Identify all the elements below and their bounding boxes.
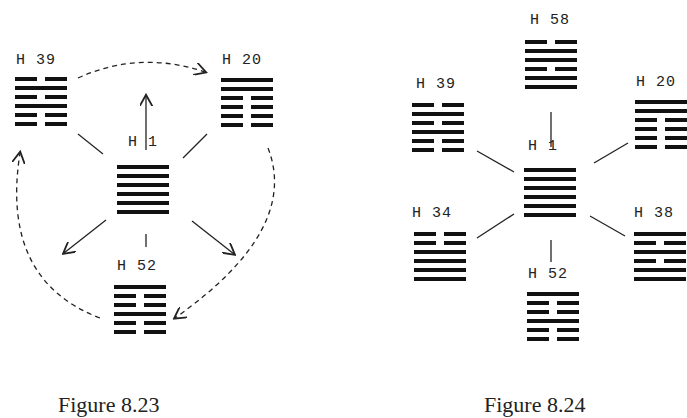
solid-line — [634, 232, 686, 236]
hexagram-label: H 20 — [636, 74, 676, 91]
broken-line — [635, 136, 687, 140]
hexagram-20 — [221, 78, 273, 132]
solid-line — [525, 49, 577, 53]
solid-line — [414, 250, 466, 254]
hexagram-52 — [527, 292, 579, 346]
hexagram-39 — [412, 103, 464, 157]
solid-line — [412, 130, 464, 134]
hexagram-label: H 39 — [416, 76, 456, 93]
broken-line — [527, 310, 579, 314]
broken-line — [414, 232, 466, 236]
broken-line — [114, 294, 166, 298]
hexagram-label: H 1 — [528, 138, 558, 155]
solid-line — [117, 192, 169, 196]
broken-line — [412, 103, 464, 107]
broken-line — [15, 77, 67, 81]
broken-line — [635, 145, 687, 149]
solid-line — [117, 165, 169, 169]
broken-line — [221, 123, 273, 127]
broken-line — [525, 40, 577, 44]
hexagram-label: H 39 — [16, 52, 56, 69]
hexagram-39 — [15, 77, 67, 131]
solid-line — [117, 183, 169, 187]
hexagram-58 — [525, 40, 577, 94]
broken-line — [221, 96, 273, 100]
hexagram-label: H 20 — [222, 52, 262, 69]
solid-line — [524, 213, 576, 217]
solid-line — [117, 174, 169, 178]
solid-line — [414, 268, 466, 272]
solid-line — [114, 285, 166, 289]
solid-line — [525, 76, 577, 80]
broken-line — [15, 95, 67, 99]
broken-line — [414, 241, 466, 245]
broken-line — [15, 113, 67, 117]
broken-line — [634, 241, 686, 245]
broken-line — [114, 330, 166, 334]
broken-line — [527, 328, 579, 332]
broken-line — [15, 122, 67, 126]
broken-line — [634, 259, 686, 263]
solid-line — [117, 210, 169, 214]
hexagram-label: H 38 — [634, 205, 674, 222]
solid-line — [634, 250, 686, 254]
broken-line — [525, 67, 577, 71]
hexagram-label: H 52 — [117, 258, 157, 275]
figure-caption: Figure 8.23 — [58, 392, 159, 418]
broken-line — [635, 118, 687, 122]
broken-line — [527, 301, 579, 305]
hexagram-1 — [524, 168, 576, 222]
hexagram-label: H 1 — [128, 134, 158, 151]
solid-line — [15, 86, 67, 90]
solid-line — [414, 259, 466, 263]
solid-line — [524, 168, 576, 172]
solid-line — [524, 177, 576, 181]
broken-line — [635, 127, 687, 131]
solid-line — [525, 85, 577, 89]
solid-line — [524, 186, 576, 190]
solid-line — [634, 277, 686, 281]
solid-line — [527, 319, 579, 323]
solid-line — [635, 109, 687, 113]
solid-line — [524, 204, 576, 208]
hexagram-38 — [634, 232, 686, 286]
broken-line — [412, 139, 464, 143]
hexagram-label: H 52 — [528, 266, 568, 283]
solid-line — [635, 100, 687, 104]
broken-line — [221, 105, 273, 109]
solid-line — [414, 277, 466, 281]
solid-line — [114, 312, 166, 316]
hexagram-label: H 34 — [412, 205, 452, 222]
hexagram-label: H 58 — [530, 12, 570, 29]
solid-line — [221, 78, 273, 82]
solid-line — [117, 201, 169, 205]
broken-line — [412, 148, 464, 152]
solid-line — [15, 104, 67, 108]
broken-line — [412, 121, 464, 125]
solid-line — [412, 112, 464, 116]
figure-caption: Figure 8.24 — [484, 392, 585, 418]
solid-line — [221, 87, 273, 91]
solid-line — [525, 58, 577, 62]
solid-line — [527, 292, 579, 296]
hexagram-52 — [114, 285, 166, 339]
hexagram-1 — [117, 165, 169, 219]
solid-line — [634, 268, 686, 272]
hexagram-20 — [635, 100, 687, 154]
broken-line — [527, 337, 579, 341]
broken-line — [114, 303, 166, 307]
broken-line — [114, 321, 166, 325]
solid-line — [524, 195, 576, 199]
broken-line — [221, 114, 273, 118]
hexagram-34 — [414, 232, 466, 286]
